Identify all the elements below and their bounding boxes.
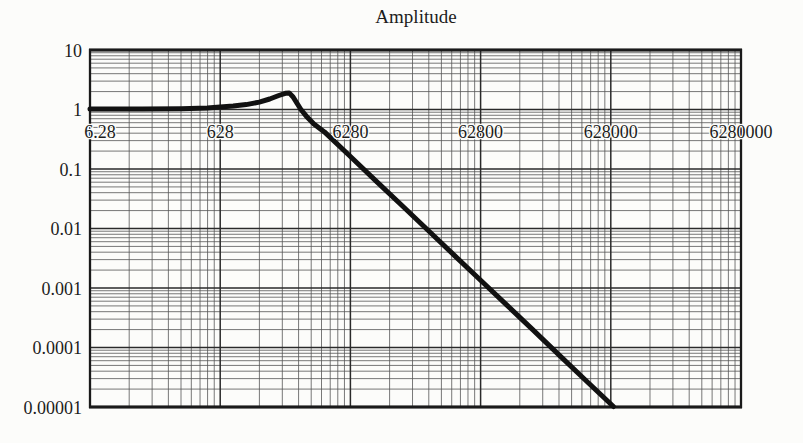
y-tick-label: 1: [73, 100, 82, 120]
y-tick-label: 0.00001: [24, 398, 83, 418]
page-root: Amplitude 1010.10.010.0010.00010.00001 6…: [0, 0, 803, 443]
chart-title: Amplitude: [375, 6, 456, 27]
y-tick-label: 10: [64, 41, 82, 61]
amplitude-chart: Amplitude 1010.10.010.0010.00010.00001 6…: [0, 0, 803, 443]
x-tick-label: 628000: [584, 122, 638, 142]
x-tick-label: 6.28: [84, 122, 116, 142]
x-tick-label: 628: [207, 122, 234, 142]
x-axis-tick-labels: 6.286286280628006280006280000: [84, 122, 772, 142]
y-tick-label: 0.001: [42, 279, 83, 299]
y-tick-label: 0.01: [51, 219, 83, 239]
x-tick-label: 6280: [332, 122, 368, 142]
y-tick-label: 0.0001: [33, 338, 83, 358]
x-tick-label: 62800: [458, 122, 503, 142]
x-tick-label: 6280000: [710, 122, 773, 142]
y-axis-tick-labels: 1010.10.010.0010.00010.00001: [24, 41, 83, 418]
y-tick-label: 0.1: [60, 160, 83, 180]
